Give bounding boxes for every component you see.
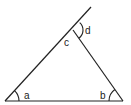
angle-d-arc [79,23,83,39]
triangle-diagram: a b c d [0,0,131,105]
label-d: d [85,25,91,36]
label-a: a [24,90,30,101]
left-side-extended [5,7,91,101]
label-c: c [64,37,69,48]
angle-a-arc [15,91,20,101]
right-side [73,30,123,101]
angle-b-arc [109,90,115,102]
label-b: b [100,90,106,101]
